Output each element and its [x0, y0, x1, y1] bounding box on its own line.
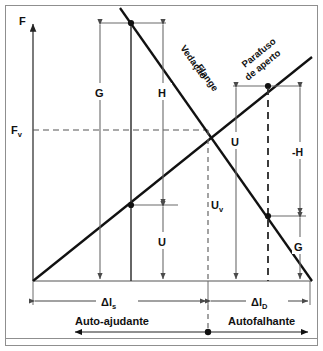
dimension-label-g-right: G [294, 241, 303, 253]
label-vedacao-flange: Vedação Flange [178, 43, 221, 93]
diagram-canvas: F Fv Vedação Flange Parafuso de aperto [0, 0, 323, 351]
delta-ls-symbol: Δl [101, 296, 112, 308]
delta-ls-subscript: s [112, 302, 116, 311]
dimension-label-u-center: U [231, 136, 239, 148]
delta-ld-symbol: Δl [251, 296, 262, 308]
dimension-label-g-left: G [95, 87, 104, 99]
dimension-label-h-left: H [158, 87, 166, 99]
point-ascending-left [128, 202, 134, 208]
point-descending-right [265, 213, 271, 219]
delta-ld-subscript: D [262, 302, 268, 311]
fv-label-subscript: v [18, 130, 23, 139]
curve-descending-vedacao-flange [120, 8, 312, 281]
figure-root: F Fv Vedação Flange Parafuso de aperto [0, 0, 323, 351]
dimension-label-h-right: -H [292, 146, 303, 158]
dimension-label-uv: Uv [211, 199, 224, 214]
label-parafuso-de-aperto: Parafuso de aperto [239, 35, 282, 82]
dimension-label-uv-main: U [211, 199, 219, 211]
curve-ascending-parafuso-de-aperto [33, 57, 312, 281]
dimension-label-u-left: U [158, 236, 166, 248]
fv-label: Fv [11, 124, 23, 139]
zone-divider-dot [205, 329, 211, 335]
dimension-label-uv-subscript: v [219, 205, 224, 214]
zone-label-right: Autofalhante [228, 315, 295, 327]
y-axis-label: F [19, 15, 26, 27]
zone-label-left: Auto-ajudante [75, 315, 149, 327]
point-descending-top [128, 20, 134, 26]
